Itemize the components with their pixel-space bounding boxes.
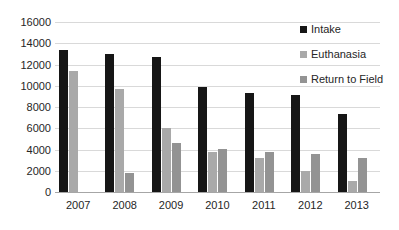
bar	[291, 95, 300, 192]
legend-label: Euthanasia	[311, 49, 366, 60]
bar	[265, 152, 274, 192]
y-tick-label: 4000	[3, 145, 51, 156]
bar-group	[148, 22, 194, 192]
legend-swatch-icon	[300, 26, 307, 33]
bar	[255, 158, 264, 192]
y-axis: 0200040006000800010000120001400016000	[0, 0, 51, 230]
bar	[172, 143, 181, 192]
chart-legend: IntakeEuthanasiaReturn to Field	[300, 17, 399, 92]
y-tick-label: 14000	[3, 38, 51, 49]
bar	[162, 128, 171, 192]
y-tick-label: 2000	[3, 166, 51, 177]
bar-group	[55, 22, 101, 192]
x-tick-label: 2010	[194, 195, 240, 217]
y-tick-label: 16000	[3, 17, 51, 28]
x-tick-label: 2009	[148, 195, 194, 217]
legend-swatch-icon	[300, 51, 307, 58]
bar	[115, 89, 124, 192]
y-tick-label: 10000	[3, 81, 51, 92]
legend-item: Intake	[300, 17, 399, 42]
bar	[125, 173, 134, 192]
bar	[218, 149, 227, 192]
bar	[245, 93, 254, 192]
bar	[311, 154, 320, 192]
x-axis: 2007200820092010201120122013	[55, 195, 380, 217]
bar	[152, 57, 161, 192]
legend-item: Return to Field	[300, 67, 399, 92]
bar	[338, 114, 347, 192]
x-tick-label: 2011	[241, 195, 287, 217]
bar	[301, 171, 310, 192]
bar-group	[241, 22, 287, 192]
legend-item: Euthanasia	[300, 42, 399, 67]
y-tick-label: 6000	[3, 123, 51, 134]
bar	[348, 181, 357, 192]
bar-group	[101, 22, 147, 192]
y-tick-label: 0	[3, 187, 51, 198]
bar	[105, 54, 114, 192]
bar	[358, 158, 367, 192]
bar	[69, 71, 78, 192]
bar	[208, 152, 217, 192]
axis-line-zero	[55, 192, 380, 193]
bar	[198, 87, 207, 192]
legend-label: Return to Field	[311, 74, 383, 85]
x-tick-label: 2013	[334, 195, 380, 217]
bar-chart: 0200040006000800010000120001400016000 20…	[0, 0, 399, 230]
legend-label: Intake	[311, 24, 341, 35]
bar-group	[194, 22, 240, 192]
x-tick-label: 2008	[101, 195, 147, 217]
x-tick-label: 2012	[287, 195, 333, 217]
y-tick-label: 12000	[3, 60, 51, 71]
bar	[59, 50, 68, 192]
legend-swatch-icon	[300, 76, 307, 83]
x-tick-label: 2007	[55, 195, 101, 217]
y-tick-label: 8000	[3, 102, 51, 113]
